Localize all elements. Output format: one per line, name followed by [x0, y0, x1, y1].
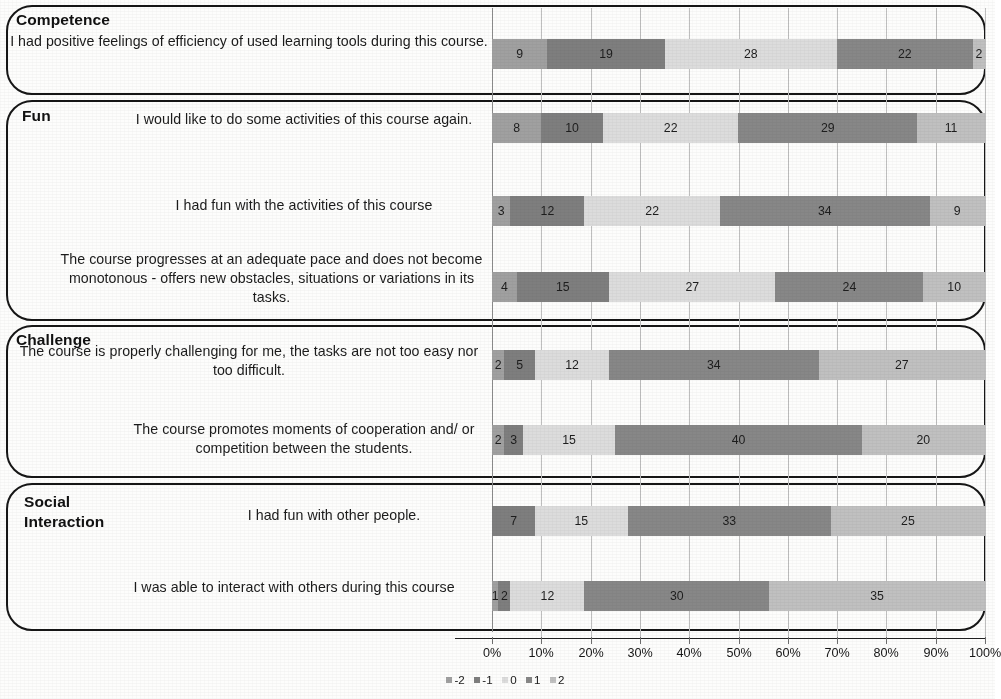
bar-segment-value: 12	[541, 204, 555, 218]
bar-segment: 12	[510, 581, 584, 611]
legend-swatch	[446, 677, 452, 683]
bar-segment-value: 27	[685, 280, 699, 294]
bar-segment-value: 34	[707, 358, 721, 372]
bar-segment-value: 11	[945, 121, 958, 135]
bar-segment-value: 7	[510, 514, 517, 528]
x-axis-tick-label: 80%	[873, 646, 898, 660]
bar-segment: 25	[831, 506, 985, 536]
x-axis-tick	[640, 637, 641, 644]
bar-segment: 7	[492, 506, 535, 536]
bar-segment-value: 29	[821, 121, 835, 135]
stacked-bar: 810222911	[492, 113, 985, 143]
legend-label: 1	[534, 673, 540, 686]
bar-segment-value: 4	[501, 280, 508, 294]
x-axis-tick	[985, 637, 986, 644]
x-axis-tick-label: 90%	[923, 646, 948, 660]
legend-item: 1	[526, 673, 541, 686]
legend-swatch	[502, 677, 508, 683]
bar-segment-value: 12	[565, 358, 579, 372]
x-axis-tick	[492, 637, 493, 644]
bar-segment-value: 30	[670, 589, 684, 603]
bar-segment-value: 3	[498, 204, 505, 218]
bar-segment: 29	[738, 113, 917, 143]
bar-segment: 22	[837, 39, 973, 69]
bar-segment: 2	[492, 350, 504, 380]
stacked-bar: 07153325	[492, 506, 985, 536]
legend-label: -1	[482, 673, 492, 686]
legend: -2-1012	[446, 673, 564, 686]
x-axis-tick-label: 70%	[824, 646, 849, 660]
bar-segment-value: 33	[722, 514, 736, 528]
x-axis-tick-label: 0%	[483, 646, 501, 660]
bar-segment-value: 15	[556, 280, 570, 294]
bar-segment-value: 34	[818, 204, 832, 218]
bar-segment: 27	[609, 272, 775, 302]
bar-segment: 12	[510, 196, 584, 226]
legend-swatch	[474, 677, 480, 683]
bar-segment: 15	[517, 272, 609, 302]
x-axis-tick-label: 100%	[969, 646, 1001, 660]
bar-segment: 2	[498, 581, 510, 611]
statement-text: I was able to interact with others durin…	[100, 578, 488, 597]
bar-segment-value: 2	[501, 589, 508, 603]
x-axis-tick-label: 50%	[726, 646, 751, 660]
legend-label: -2	[455, 673, 465, 686]
stacked-bar: 12123035	[492, 581, 985, 611]
x-axis-tick	[886, 637, 887, 644]
bar-segment: 3	[504, 425, 522, 455]
bar-segment-value: 10	[947, 280, 961, 294]
bar-segment: 22	[603, 113, 739, 143]
legend-item: -1	[474, 673, 493, 686]
bar-segment: 34	[609, 350, 819, 380]
bar-segment: 3	[492, 196, 510, 226]
bar-segment-value: 9	[954, 204, 961, 218]
bar-segment-value: 27	[895, 358, 909, 372]
bar-segment: 34	[720, 196, 930, 226]
bar-segment: 2	[492, 425, 504, 455]
bar-segment: 33	[628, 506, 831, 536]
legend-label: 2	[558, 673, 564, 686]
bar-segment: 24	[775, 272, 923, 302]
bar-segment: 9	[492, 39, 547, 69]
x-axis-tick	[591, 637, 592, 644]
bar-segment: 19	[547, 39, 664, 69]
bar-segment-value: 15	[575, 514, 589, 528]
statement-text: I would like to do some activities of th…	[120, 110, 488, 129]
legend-label: 0	[510, 673, 516, 686]
stacked-bar: 91928222	[492, 39, 985, 69]
x-axis-tick-label: 60%	[775, 646, 800, 660]
bar-segment: 20	[862, 425, 985, 455]
bar-segment: 12	[535, 350, 609, 380]
bar-segment-value: 35	[870, 589, 884, 603]
bar-segment-value: 3	[510, 433, 517, 447]
bar-segment-value: 12	[541, 589, 555, 603]
legend-swatch	[550, 677, 556, 683]
x-axis-tick	[689, 637, 690, 644]
bar-segment: 27	[819, 350, 985, 380]
statement-text: I had fun with other people.	[180, 506, 488, 525]
category-title: Fun	[22, 106, 51, 126]
x-axis-tick	[788, 637, 789, 644]
bar-segment-value: 2	[495, 433, 502, 447]
bar-segment-value: 24	[843, 280, 857, 294]
bar-segment: 22	[584, 196, 720, 226]
category-title: Competence	[16, 10, 110, 30]
x-axis-tick	[936, 637, 937, 644]
bar-segment-value: 5	[516, 358, 523, 372]
bar-segment-value: 20	[917, 433, 931, 447]
bar-segment: 8	[492, 113, 541, 143]
x-axis-tick-label: 40%	[676, 646, 701, 660]
bar-segment: 40	[615, 425, 862, 455]
x-axis-tick	[541, 637, 542, 644]
legend-item: 2	[550, 673, 565, 686]
bar-segment: 15	[535, 506, 627, 536]
x-axis-tick-label: 10%	[528, 646, 553, 660]
category-title: Social Interaction	[24, 492, 104, 533]
bar-segment-value: 28	[744, 47, 758, 61]
bar-segment-value: 22	[664, 121, 678, 135]
bar-segment-value: 25	[901, 514, 915, 528]
bar-segment-value: 19	[599, 47, 613, 61]
bar-segment-value: 22	[645, 204, 659, 218]
bar-segment-value: 15	[562, 433, 576, 447]
x-axis-tick	[837, 637, 838, 644]
